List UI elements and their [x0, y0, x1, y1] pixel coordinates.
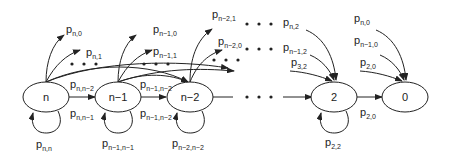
node-n-2: n−2 — [167, 82, 213, 112]
label-p-2-0-top: p2,0 — [360, 56, 376, 70]
node-2: 2 — [311, 82, 357, 112]
label-p-n-0: pn,0 — [66, 23, 82, 37]
ellipsis-dot — [245, 47, 248, 50]
ellipsis-dot — [257, 95, 260, 98]
label-p-n-n-1: pn,n−1 — [70, 107, 94, 121]
ellipsis-dot — [269, 47, 272, 50]
label-p-n-n: pn,n — [36, 138, 52, 152]
edge-2-to-0-top — [360, 71, 402, 81]
label-p-n-2-target: pn,2 — [283, 16, 299, 30]
label-p-n-2-0: pn−2,0 — [218, 35, 242, 49]
ellipsis-dot — [269, 95, 272, 98]
svg-text:n: n — [43, 91, 49, 103]
ellipsis-dot — [154, 62, 157, 65]
label-p-n-n-2: pn,n−2 — [70, 78, 94, 92]
label-p-n-2-n-2: pn−2,n−2 — [172, 137, 204, 151]
node-n: n — [23, 82, 69, 112]
label-p-n-1-0: pn−1,0 — [153, 23, 177, 37]
ellipsis-dot — [142, 62, 145, 65]
ellipsis-dot — [224, 58, 227, 61]
label-p-n-1-n-1: pn−1,n−1 — [102, 137, 134, 151]
ellipsis-dot — [245, 95, 248, 98]
svg-text:n−1: n−1 — [109, 91, 128, 103]
self-loop-n-1 — [104, 111, 132, 133]
ellipsis-dot — [94, 62, 97, 65]
markov-chain-diagram: n n−1 n−2 2 0 pn,0 pn,1 pn,n−2 pn,n−1 pn… — [0, 0, 449, 160]
ellipsis-dot — [269, 22, 272, 25]
label-p-n-2-1: pn−2,1 — [212, 8, 236, 22]
node-0: 0 — [382, 82, 428, 112]
svg-text:2: 2 — [331, 91, 337, 103]
ellipsis-dot — [166, 62, 169, 65]
edge-n-1-long-arc — [118, 69, 234, 82]
label-p-2-0: p2,0 — [360, 106, 376, 120]
ellipsis-dot — [236, 58, 239, 61]
ellipsis-dot — [257, 22, 260, 25]
label-p-n-1-n-2-top: pn−1,n−2 — [140, 78, 172, 92]
label-p-3-2: p3,2 — [291, 56, 307, 70]
self-loop-n-2 — [176, 111, 204, 133]
self-loop-2 — [320, 111, 348, 133]
label-p-n-1-n-2: pn−1,n−2 — [140, 107, 172, 121]
edge-n-to-0 — [46, 35, 64, 82]
node-n-1: n−1 — [95, 82, 141, 112]
ellipsis-dot — [257, 47, 260, 50]
label-p-2-2: p2,2 — [325, 136, 341, 150]
label-p-n-1-1: pn−1,1 — [153, 45, 177, 59]
ellipsis-dot — [245, 22, 248, 25]
label-p-n-1-2: pn−1,2 — [283, 41, 307, 55]
label-p-n-1-0-right: pn−1,0 — [354, 34, 378, 48]
svg-text:0: 0 — [402, 91, 408, 103]
edge-n-1-to-0-right — [380, 55, 404, 80]
ellipsis-dot — [212, 58, 215, 61]
ellipsis-dot — [70, 62, 73, 65]
self-loop-n — [32, 111, 60, 133]
label-p-n-1: pn,1 — [86, 46, 102, 60]
edge-n-1-to-2 — [310, 55, 334, 80]
edge-3-to-2 — [290, 71, 332, 81]
svg-text:n−2: n−2 — [181, 91, 200, 103]
label-p-n-0-right: pn,0 — [354, 12, 370, 26]
ellipsis-dot — [82, 62, 85, 65]
edge-n-1-to-0 — [118, 35, 136, 82]
